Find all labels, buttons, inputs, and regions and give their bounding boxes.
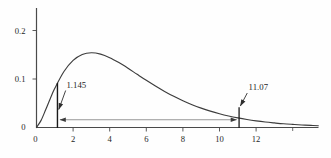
annotation-arrow — [240, 93, 247, 106]
x-tick-label: 2 — [71, 134, 75, 144]
x-tick-label: 10 — [215, 134, 224, 144]
pdf-curve — [37, 53, 319, 128]
x-tick-label: 4 — [108, 134, 113, 144]
y-tick-label: 0.1 — [15, 74, 26, 84]
x-tick-label: 12 — [252, 134, 261, 144]
x-tick-label: 0 — [33, 134, 37, 144]
annotation-arrow — [59, 91, 66, 110]
y-tick-label: 0.2 — [15, 26, 26, 36]
x-tick-label: 6 — [144, 134, 149, 144]
x-tick-label: 8 — [181, 134, 185, 144]
annotation-label: 11.07 — [249, 82, 269, 92]
plot-area: 02468101200.10.21.14511.07 — [15, 8, 319, 144]
figure: 02468101200.10.21.14511.07 — [0, 0, 331, 158]
annotation-label: 1.145 — [66, 80, 86, 90]
y-tick-label: 0 — [21, 122, 25, 132]
chi-square-distribution-chart: 02468101200.10.21.14511.07 — [0, 0, 331, 158]
